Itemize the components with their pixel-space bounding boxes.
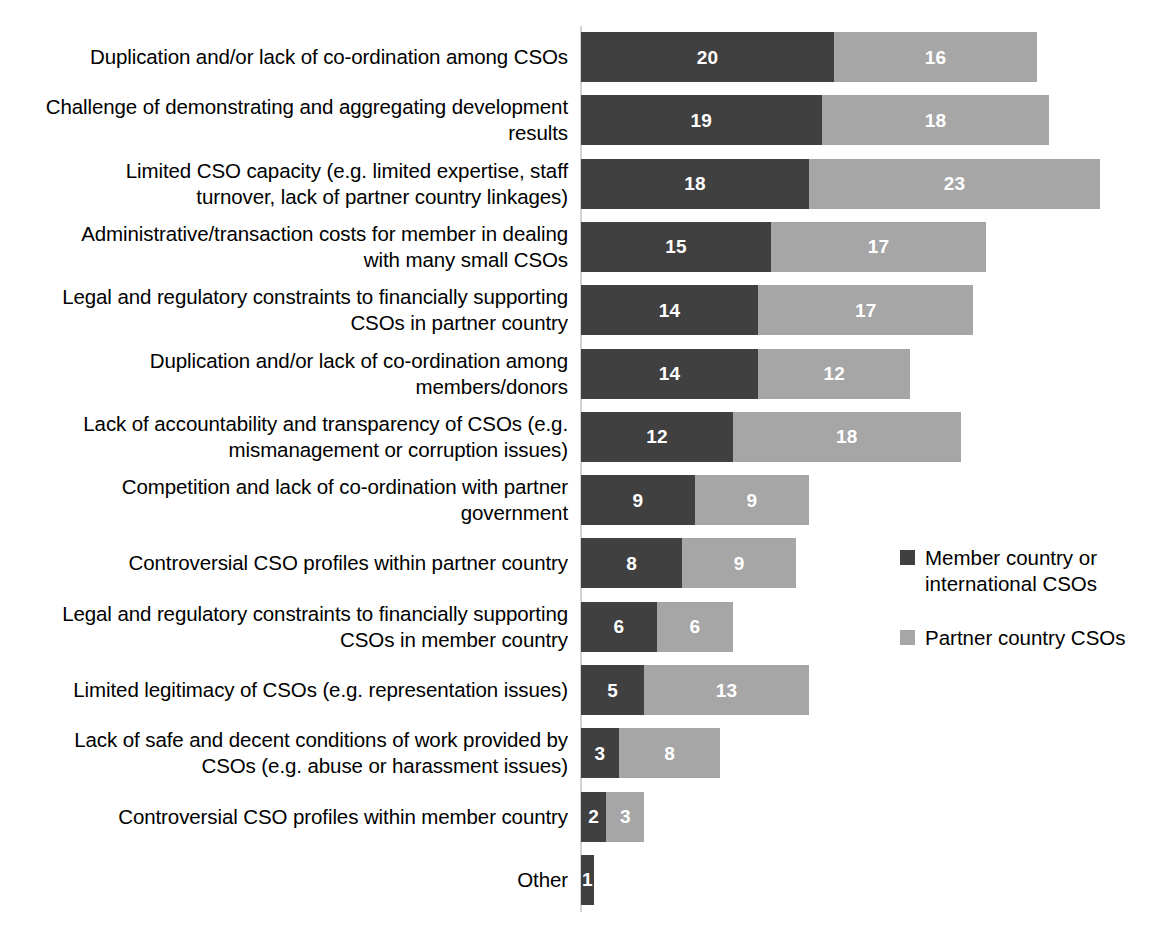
- bar-segment-partner: 8: [619, 728, 720, 778]
- legend-label: Member country or international CSOs: [925, 545, 1140, 597]
- bar-segment-member: 12: [581, 412, 733, 462]
- category-label: Controversial CSO profiles within partne…: [0, 550, 568, 576]
- bar-segment-member: 6: [581, 602, 657, 652]
- bar-value-label: 9: [633, 491, 644, 510]
- bar-value-label: 8: [664, 744, 675, 763]
- legend-swatch-icon: [900, 630, 915, 645]
- bar-value-label: 14: [659, 364, 681, 383]
- bar-row: 1918: [581, 95, 1049, 145]
- bar-value-label: 20: [697, 48, 719, 67]
- bar-value-label: 16: [925, 48, 947, 67]
- bar-value-label: 6: [690, 617, 701, 636]
- bar-row: 2016: [581, 32, 1037, 82]
- bar-segment-partner: 18: [822, 95, 1050, 145]
- bar-segment-member: 14: [581, 285, 758, 335]
- bar-value-label: 2: [588, 807, 599, 826]
- category-label: Lack of safe and decent conditions of wo…: [0, 727, 568, 779]
- bar-row: 38: [581, 728, 720, 778]
- bar-segment-member: 1: [581, 855, 594, 905]
- category-label: Lack of accountability and transparency …: [0, 411, 568, 463]
- bar-value-label: 19: [690, 111, 712, 130]
- bar-value-label: 14: [659, 301, 681, 320]
- bar-row: 513: [581, 665, 809, 715]
- bar-value-label: 18: [836, 427, 858, 446]
- bar-row: 1: [581, 855, 594, 905]
- bar-value-label: 1: [582, 870, 593, 889]
- bar-segment-partner: 23: [809, 159, 1100, 209]
- category-label: Limited legitimacy of CSOs (e.g. represe…: [0, 677, 568, 703]
- bar-value-label: 3: [595, 744, 606, 763]
- bar-value-label: 6: [614, 617, 625, 636]
- category-label: Legal and regulatory constraints to fina…: [0, 284, 568, 336]
- bar-segment-member: 18: [581, 159, 809, 209]
- bar-segment-member: 3: [581, 728, 619, 778]
- bar-segment-member: 19: [581, 95, 822, 145]
- plot-area: 2016191818231517141714121218998966513382…: [581, 0, 1169, 947]
- bar-value-label: 15: [665, 237, 687, 256]
- bar-value-label: 18: [925, 111, 947, 130]
- bar-segment-partner: 6: [657, 602, 733, 652]
- bar-segment-member: 20: [581, 32, 834, 82]
- category-label: Challenge of demonstrating and aggregati…: [0, 94, 568, 146]
- bar-row: 89: [581, 538, 796, 588]
- bar-row: 1517: [581, 222, 986, 272]
- bar-segment-partner: 9: [682, 538, 796, 588]
- bar-segment-partner: 3: [606, 792, 644, 842]
- bar-segment-member: 15: [581, 222, 771, 272]
- bar-segment-partner: 18: [733, 412, 961, 462]
- bar-row: 1412: [581, 349, 910, 399]
- category-axis-labels: Duplication and/or lack of co-ordination…: [0, 0, 568, 947]
- bar-segment-partner: 16: [834, 32, 1037, 82]
- category-label: Competition and lack of co-ordination wi…: [0, 474, 568, 526]
- bar-row: 66: [581, 602, 733, 652]
- bar-segment-partner: 9: [695, 475, 809, 525]
- category-label: Administrative/transaction costs for mem…: [0, 221, 568, 273]
- bar-segment-member: 2: [581, 792, 606, 842]
- bar-segment-partner: 12: [758, 349, 910, 399]
- stacked-bar-chart: Duplication and/or lack of co-ordination…: [0, 0, 1169, 947]
- bar-value-label: 5: [607, 681, 618, 700]
- bar-segment-partner: 17: [771, 222, 986, 272]
- bar-segment-member: 5: [581, 665, 644, 715]
- chart-legend: Member country or international CSOsPart…: [900, 545, 1165, 679]
- legend-item[interactable]: Partner country CSOs: [900, 625, 1165, 651]
- bar-row: 1823: [581, 159, 1100, 209]
- legend-item[interactable]: Member country or international CSOs: [900, 545, 1165, 597]
- bar-value-label: 9: [734, 554, 745, 573]
- bar-row: 23: [581, 792, 644, 842]
- bar-row: 99: [581, 475, 809, 525]
- legend-swatch-icon: [900, 550, 915, 565]
- bar-row: 1417: [581, 285, 973, 335]
- category-label: Legal and regulatory constraints to fina…: [0, 601, 568, 653]
- bar-segment-member: 14: [581, 349, 758, 399]
- bar-value-label: 12: [823, 364, 845, 383]
- bar-value-label: 17: [868, 237, 890, 256]
- category-label: Controversial CSO profiles within member…: [0, 804, 568, 830]
- category-label: Duplication and/or lack of co-ordination…: [0, 44, 568, 70]
- bar-value-label: 8: [626, 554, 637, 573]
- bar-value-label: 9: [747, 491, 758, 510]
- category-label: Other: [0, 867, 568, 893]
- category-label: Limited CSO capacity (e.g. limited exper…: [0, 158, 568, 210]
- bar-segment-member: 9: [581, 475, 695, 525]
- bar-value-label: 13: [716, 681, 738, 700]
- category-label: Duplication and/or lack of co-ordination…: [0, 348, 568, 400]
- bar-segment-member: 8: [581, 538, 682, 588]
- bar-value-label: 12: [646, 427, 668, 446]
- bar-segment-partner: 13: [644, 665, 809, 715]
- bar-segment-partner: 17: [758, 285, 973, 335]
- legend-label: Partner country CSOs: [925, 625, 1126, 651]
- bar-row: 1218: [581, 412, 961, 462]
- bar-value-label: 3: [620, 807, 631, 826]
- bar-value-label: 17: [855, 301, 877, 320]
- bar-value-label: 18: [684, 174, 706, 193]
- bar-value-label: 23: [944, 174, 966, 193]
